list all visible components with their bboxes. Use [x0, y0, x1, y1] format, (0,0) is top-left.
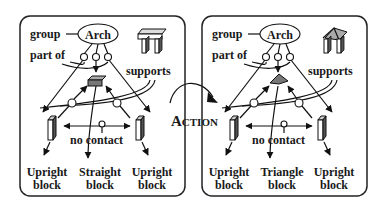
upright-block-icon [230, 120, 235, 140]
block-label-line2: block [268, 178, 296, 192]
no-contact-label: no contact [252, 133, 305, 147]
concept-label: Arch [85, 28, 111, 42]
part-of-node [81, 54, 88, 61]
triangle-block-icon [270, 74, 288, 84]
part-of-node [93, 54, 100, 61]
straight-block-icon [88, 80, 102, 86]
supports-node [68, 99, 76, 107]
part-of-label: part of [30, 48, 66, 62]
part-of-node [275, 54, 282, 61]
block-label-line1: Upright [27, 165, 68, 179]
curved-arrow-icon [170, 83, 213, 103]
part-of-node [287, 54, 294, 61]
no-contact-node [99, 121, 105, 127]
block-label-line2: block [320, 178, 348, 192]
supports-node [295, 99, 303, 107]
arch-diagram: ACTION groupArchpart ofsupportsno contac… [0, 0, 387, 209]
concept-label: Arch [267, 28, 293, 42]
supports-node [113, 99, 121, 107]
supports-node [250, 99, 258, 107]
part-of-node [105, 54, 112, 61]
block-label-line2: block [86, 178, 114, 192]
action-arrow: ACTION [170, 83, 218, 129]
block-label-line1: Straight [79, 165, 121, 179]
panel-before: groupArchpart ofsupportsno contactUprigh… [20, 16, 185, 196]
upright-block-icon [48, 120, 53, 140]
block-label-line1: Upright [314, 165, 355, 179]
block-label-line1: Upright [209, 165, 250, 179]
block-label-line2: block [33, 178, 61, 192]
panel-after: groupArchpart ofsupportsno contactUprigh… [202, 16, 367, 196]
upright-block-icon [318, 120, 323, 140]
block-label-line1: Upright [132, 165, 173, 179]
triangle-arch-icon [323, 28, 347, 53]
upright-block-icon [136, 120, 141, 140]
no-contact-node [281, 121, 287, 127]
part-of-node [263, 54, 270, 61]
block-label-line1: Triangle [260, 165, 304, 179]
no-contact-label: no contact [70, 133, 123, 147]
table-arch-icon [138, 29, 166, 53]
supports-label: supports [308, 64, 353, 78]
action-label: ACTION [171, 113, 218, 129]
arrowhead-icon [207, 92, 218, 103]
block-label-line2: block [215, 178, 243, 192]
straight-block-top [88, 76, 106, 80]
supports-label: supports [126, 64, 171, 78]
group-label: group [212, 27, 243, 41]
part-of-label: part of [212, 48, 248, 62]
group-label: group [30, 27, 61, 41]
block-label-line2: block [138, 178, 166, 192]
